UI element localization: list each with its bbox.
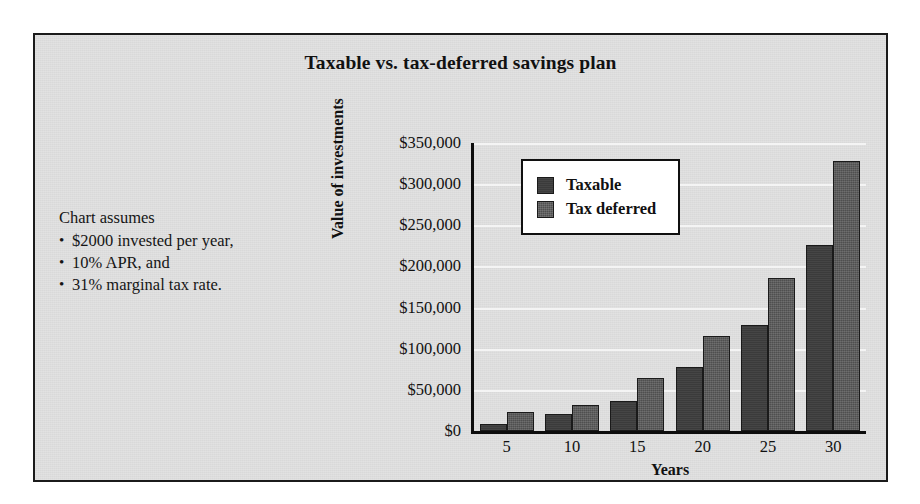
legend-entry-label: Taxable <box>566 175 621 195</box>
legend-entry: Taxable <box>537 175 656 195</box>
x-axis-tick-label: 30 <box>805 437 861 457</box>
x-axis-tick-label: 20 <box>675 437 731 457</box>
assumptions-item: 31% marginal tax rate. <box>59 274 309 296</box>
legend-swatch-icon <box>537 201 554 218</box>
y-axis-tick-label: $0 <box>445 421 462 441</box>
x-axis-tick-label: 10 <box>544 437 600 457</box>
chart-legend: Taxable Tax deferred <box>521 159 680 235</box>
y-axis-tick-label: $150,000 <box>399 298 461 318</box>
y-axis-tick-label: $350,000 <box>399 133 461 153</box>
bar-taxable-20 <box>676 367 703 431</box>
bar-group <box>741 143 795 431</box>
chart-figure-frame: Taxable vs. tax-deferred savings plan Ch… <box>33 33 888 482</box>
assumptions-note: Chart assumes $2000 invested per year, 1… <box>59 207 309 296</box>
bar-group <box>676 143 730 431</box>
assumptions-heading: Chart assumes <box>59 207 309 229</box>
legend-swatch-icon <box>537 177 554 194</box>
bar-taxable-10 <box>545 414 572 431</box>
plot-block: Value of investments $0$50,000$100,000$1… <box>335 89 875 479</box>
bar-tax-deferred-30 <box>833 161 860 431</box>
bar-taxable-5 <box>480 424 507 431</box>
y-axis-tick-label: $50,000 <box>407 380 461 400</box>
bar-tax-deferred-10 <box>572 405 599 431</box>
bar-tax-deferred-5 <box>507 412 534 431</box>
bar-tax-deferred-25 <box>768 278 795 431</box>
bar-group <box>806 143 860 431</box>
legend-entry-label: Tax deferred <box>566 199 656 219</box>
bar-taxable-30 <box>806 245 833 431</box>
x-axis-tick-label: 15 <box>609 437 665 457</box>
bar-taxable-15 <box>610 401 637 431</box>
y-axis-tick-label: $300,000 <box>399 174 461 194</box>
bar-taxable-25 <box>741 325 768 431</box>
chart-title: Taxable vs. tax-deferred savings plan <box>35 52 886 74</box>
y-axis-tick-labels: $0$50,000$100,000$150,000$200,000$250,00… <box>353 143 465 431</box>
assumptions-list: $2000 invested per year, 10% APR, and 31… <box>59 230 309 296</box>
x-axis-title: Years <box>474 461 866 479</box>
assumptions-item: 10% APR, and <box>59 252 309 274</box>
bar-tax-deferred-15 <box>637 378 664 431</box>
x-axis-tick-label: 25 <box>740 437 796 457</box>
x-axis-tick-labels: 51015202530 <box>474 437 866 457</box>
y-axis-tick-label: $200,000 <box>399 256 461 276</box>
x-axis-tick-label: 5 <box>479 437 535 457</box>
y-axis-tick-label: $250,000 <box>399 215 461 235</box>
y-axis-title: Value of investments <box>329 98 347 239</box>
bar-tax-deferred-20 <box>703 336 730 431</box>
y-axis-tick-label: $100,000 <box>399 339 461 359</box>
assumptions-item: $2000 invested per year, <box>59 230 309 252</box>
legend-entry: Tax deferred <box>537 199 656 219</box>
